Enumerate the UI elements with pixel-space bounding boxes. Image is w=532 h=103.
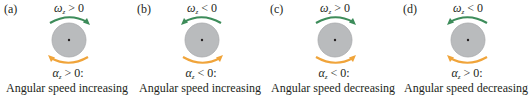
alpha-label: αz < 0: xyxy=(163,66,239,81)
rotating-disc xyxy=(38,10,100,68)
axis-dot-icon xyxy=(467,39,469,41)
panel-label: (a) xyxy=(4,2,17,17)
caption: Angular speed decreasing xyxy=(258,81,408,96)
panel-d: (d) ωz < 0 αz > 0: Angular speed decreas… xyxy=(399,0,532,103)
panel-b: (b) ωz < 0 αz < 0: Angular speed increas… xyxy=(133,0,266,103)
axis-dot-icon xyxy=(334,39,336,41)
alpha-label: αz < 0: xyxy=(296,66,372,81)
caption: Angular speed increasing xyxy=(125,81,275,96)
panel-c: (c) ωz > 0 αz < 0: Angular speed decreas… xyxy=(266,0,399,103)
caption: Angular speed decreasing xyxy=(391,81,532,96)
axis-dot-icon xyxy=(68,39,70,41)
alpha-label: αz > 0: xyxy=(429,66,505,81)
rotating-disc xyxy=(171,10,233,68)
rotating-disc xyxy=(304,10,366,68)
rotating-disc xyxy=(437,10,499,68)
alpha-label: αz > 0: xyxy=(30,66,106,81)
panel-label: (b) xyxy=(137,2,151,17)
axis-dot-icon xyxy=(201,39,203,41)
panel-label: (d) xyxy=(403,2,417,17)
panel-a: (a) ωz > 0 αz > 0: Angular speed increas… xyxy=(0,0,133,103)
panel-label: (c) xyxy=(270,2,283,17)
caption: Angular speed increasing xyxy=(0,81,142,96)
